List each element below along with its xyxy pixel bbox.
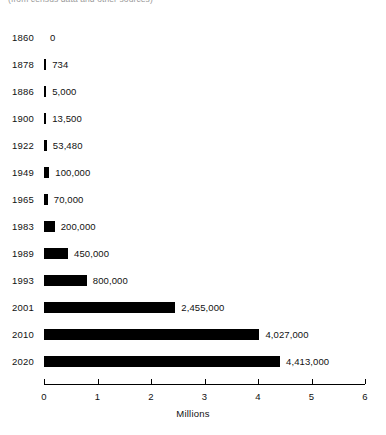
category-label: 1983: [0, 221, 34, 232]
bar: [44, 275, 87, 286]
chart-row: 18600: [0, 24, 386, 51]
x-axis: 0123456: [44, 384, 365, 385]
bar-zone: 4,027,000: [34, 321, 386, 348]
bar: [44, 329, 259, 340]
x-axis-tick-label: 2: [148, 391, 153, 402]
chart-row: 20104,027,000: [0, 321, 386, 348]
bar-zone: 13,500: [34, 105, 386, 132]
x-axis-tick: [258, 379, 259, 384]
category-label: 1965: [0, 194, 34, 205]
x-axis-tick-label: 6: [362, 391, 367, 402]
chart-rows: 18600187873418865,000190013,500192253,48…: [0, 24, 386, 375]
bar: [44, 221, 55, 232]
category-label: 1949: [0, 167, 34, 178]
bar-zone: 53,480: [34, 132, 386, 159]
chart-row: 1993800,000: [0, 267, 386, 294]
bar-zone: 450,000: [34, 240, 386, 267]
category-label: 1922: [0, 140, 34, 151]
x-axis-tick: [44, 379, 45, 384]
value-label: 4,413,000: [286, 356, 329, 367]
chart-row: 196570,000: [0, 186, 386, 213]
bar-zone: 0: [34, 24, 386, 51]
bar: [44, 86, 46, 97]
bar-zone: 200,000: [34, 213, 386, 240]
x-axis-tick: [312, 379, 313, 384]
bar-zone: 5,000: [34, 78, 386, 105]
value-label: 0: [50, 32, 55, 43]
value-label: 450,000: [74, 248, 109, 259]
category-label: 1993: [0, 275, 34, 286]
chart-row: 192253,480: [0, 132, 386, 159]
x-axis-tick-label: 5: [309, 391, 314, 402]
bar: [44, 167, 49, 178]
category-label: 1878: [0, 59, 34, 70]
value-label: 734: [52, 59, 68, 70]
x-axis-tick: [151, 379, 152, 384]
bar: [44, 140, 47, 151]
value-label: 200,000: [61, 221, 96, 232]
value-label: 5,000: [52, 86, 76, 97]
category-label: 2020: [0, 356, 34, 367]
x-axis-tick-label: 1: [95, 391, 100, 402]
bar-zone: 800,000: [34, 267, 386, 294]
bar: [44, 356, 280, 367]
category-label: 1989: [0, 248, 34, 259]
x-axis-tick-label: 3: [202, 391, 207, 402]
bar: [44, 194, 48, 205]
x-axis-tick: [98, 379, 99, 384]
value-label: 2,455,000: [181, 302, 224, 313]
value-label: 53,480: [53, 140, 83, 151]
value-label: 70,000: [54, 194, 84, 205]
bar-zone: 2,455,000: [34, 294, 386, 321]
chart-row: 190013,500: [0, 105, 386, 132]
bar-zone: 100,000: [34, 159, 386, 186]
x-axis-tick-label: 0: [41, 391, 46, 402]
bar-zone: 4,413,000: [34, 348, 386, 375]
bar: [44, 302, 175, 313]
value-label: 800,000: [93, 275, 128, 286]
chart-row: 1949100,000: [0, 159, 386, 186]
category-label: 1886: [0, 86, 34, 97]
chart-row: 18865,000: [0, 78, 386, 105]
chart-row: 1983200,000: [0, 213, 386, 240]
bar-zone: 734: [34, 51, 386, 78]
value-label: 4,027,000: [265, 329, 308, 340]
category-label: 2001: [0, 302, 34, 313]
bar-zone: 70,000: [34, 186, 386, 213]
chart-row: 20204,413,000: [0, 348, 386, 375]
chart-row: 1989450,000: [0, 240, 386, 267]
chart-row: 20012,455,000: [0, 294, 386, 321]
header-note: (from census data and other sources): [8, 0, 153, 4]
bar: [44, 248, 68, 259]
x-axis-tick: [365, 379, 366, 384]
bar-chart: (from census data and other sources) 186…: [0, 0, 386, 435]
chart-row: 1878734: [0, 51, 386, 78]
category-label: 1860: [0, 32, 34, 43]
category-label: 1900: [0, 113, 34, 124]
x-axis-tick-label: 4: [255, 391, 260, 402]
value-label: 100,000: [55, 167, 90, 178]
x-axis-title: Millions: [0, 408, 386, 419]
value-label: 13,500: [52, 113, 82, 124]
bar: [44, 113, 46, 124]
category-label: 2010: [0, 329, 34, 340]
x-axis-tick: [205, 379, 206, 384]
bar: [44, 59, 46, 70]
